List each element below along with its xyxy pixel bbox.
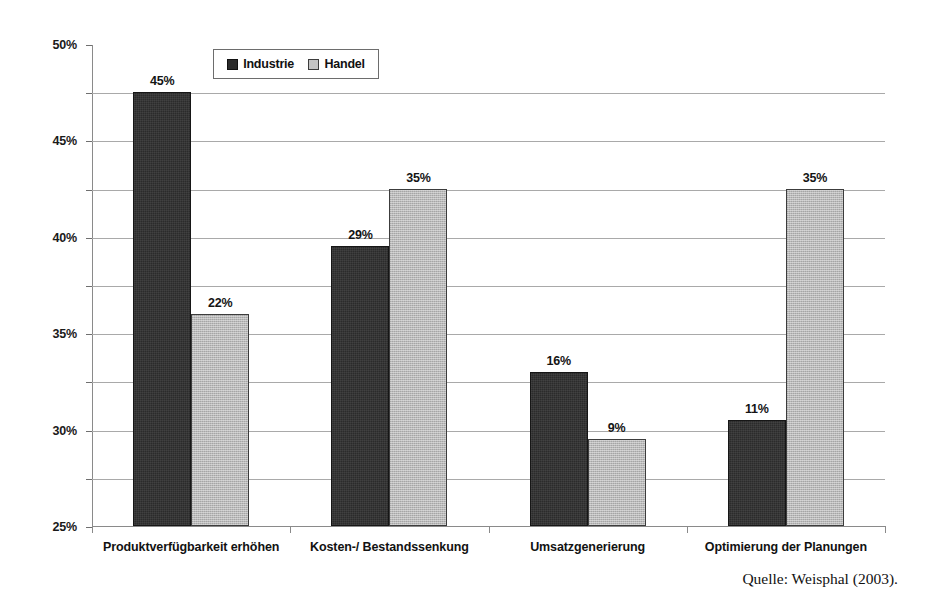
gridline [92,190,885,191]
y-axis-tick: 10% [86,431,92,432]
bar-industrie: 29% [331,246,389,526]
bar-value-label: 11% [745,402,769,416]
legend-item-industrie: Industrie [227,57,294,71]
plot-area: 0%5%10%15%20%25%30%35%40%45%50% 45%22%29… [92,45,885,527]
y-axis-tick: 40% [86,141,92,142]
y-axis-tick: 25% [86,286,92,287]
bar-value-label: 35% [803,171,827,185]
legend-label-handel: Handel [324,57,364,71]
x-axis-tick [92,526,93,533]
bar-handel: 9% [588,439,646,526]
y-axis-tick-label: 50% [53,38,77,52]
bar-value-label: 16% [546,354,570,368]
x-axis-category-label: Umsatzgenerierung [530,540,645,554]
y-axis-tick: 20% [86,334,92,335]
gridline [92,238,885,239]
chart-figure: Industrie Handel 0%5%10%15%20%25%30%35%4… [0,0,934,612]
bar-industrie: 11% [728,420,786,526]
y-axis-tick: 5% [86,479,92,480]
y-axis-tick: 35% [86,190,92,191]
source-note: Quelle: Weisphal (2003). [742,570,898,588]
gridline [92,93,885,94]
gridline [92,141,885,142]
dark-square-icon [227,59,238,70]
x-axis-category-label: Kosten-/ Bestandssenkung [310,540,469,554]
bar-value-label: 35% [406,171,430,185]
bar-industrie: 16% [530,372,588,526]
y-axis-tick-label: 35% [53,327,77,341]
bar-value-label: 9% [608,421,626,435]
y-axis-tick: 50% [86,45,92,46]
y-axis-tick: 30% [86,238,92,239]
chart-legend: Industrie Handel [213,49,379,79]
y-axis-tick-label: 40% [53,231,77,245]
legend-label-industrie: Industrie [243,57,294,71]
light-square-icon [308,59,319,70]
x-axis-category-label: Produktverfügbarkeit erhöhen [103,540,279,554]
x-axis-tick [489,526,490,533]
bar-handel: 22% [191,314,249,526]
y-axis-tick-label: 45% [53,134,77,148]
y-axis-tick: 45% [86,93,92,94]
bar-value-label: 45% [150,74,174,88]
x-axis-tick [885,526,886,533]
y-axis-tick-label: 30% [53,424,77,438]
x-axis-tick [290,526,291,533]
legend-item-handel: Handel [308,57,364,71]
bar-handel: 35% [786,189,844,526]
bar-handel: 35% [389,189,447,526]
bar-industrie: 45% [133,92,191,526]
y-axis-tick: 15% [86,382,92,383]
bar-value-label: 22% [208,296,232,310]
x-axis-category-label: Optimierung der Planungen [705,540,867,554]
bar-value-label: 29% [348,228,372,242]
y-axis-tick-label: 25% [53,520,77,534]
x-axis-tick [687,526,688,533]
gridline [92,286,885,287]
